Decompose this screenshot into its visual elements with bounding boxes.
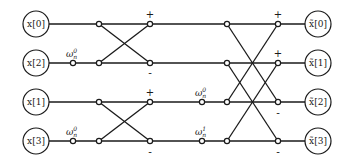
sign-plus: +: [274, 48, 282, 59]
input-label: x[2]: [27, 58, 45, 68]
sign-minus: -: [148, 67, 152, 78]
twiddle-labels: ω0n ω0n ω0n ω1n: [66, 47, 206, 138]
output-label: x̃[2]: [309, 97, 327, 107]
output-node-3: x̃[3]: [305, 128, 331, 154]
twiddle-w-n-0: ω0n: [195, 86, 206, 99]
input-node-1: x[2]: [23, 50, 49, 76]
output-nodes: x̃[0] x̃[1] x̃[2] x̃[3]: [305, 11, 331, 154]
twiddle-w-n-0: ω0n: [66, 125, 77, 138]
input-node-0: x[0]: [23, 11, 49, 37]
junction-nodes: [70, 21, 280, 143]
wires: [49, 24, 305, 141]
input-nodes: x[0] x[2] x[1] x[3]: [23, 11, 49, 154]
input-node-2: x[1]: [23, 89, 49, 115]
fft-butterfly-diagram: x[0] x[2] x[1] x[3] x̃[0] x̃[1] x̃[2]: [0, 0, 351, 164]
input-node-3: x[3]: [23, 128, 49, 154]
sign-minus: -: [276, 146, 280, 157]
sign-labels: + - + - + + - -: [146, 9, 282, 157]
output-label: x̃[3]: [309, 136, 327, 146]
input-label: x[0]: [27, 19, 45, 29]
twiddle-w-n-1: ω1n: [195, 125, 206, 138]
output-node-2: x̃[2]: [305, 89, 331, 115]
output-label: x̃[1]: [309, 58, 327, 68]
sign-minus: -: [276, 107, 280, 118]
output-label: x̃[0]: [309, 19, 327, 29]
sign-plus: +: [146, 9, 154, 20]
input-label: x[1]: [27, 97, 45, 107]
output-node-0: x̃[0]: [305, 11, 331, 37]
twiddle-w-n-0: ω0n: [66, 47, 77, 60]
sign-plus: +: [274, 9, 282, 20]
sign-minus: -: [148, 146, 152, 157]
sign-plus: +: [146, 87, 154, 98]
input-label: x[3]: [27, 136, 45, 146]
output-node-1: x̃[1]: [305, 50, 331, 76]
